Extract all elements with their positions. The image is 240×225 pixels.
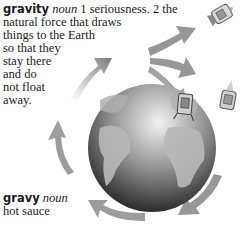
entry-word: gravy bbox=[3, 191, 40, 205]
definition-line: away. bbox=[3, 94, 143, 107]
part-of-speech: noun bbox=[52, 2, 77, 16]
part-of-speech: noun bbox=[43, 191, 68, 205]
definition-line: 1 seriousness. 2 the bbox=[77, 2, 177, 16]
dictionary-entry-gravy: gravy noun hot sauce bbox=[3, 192, 68, 218]
spacecraft-right bbox=[220, 79, 239, 110]
definition-line: hot sauce bbox=[3, 205, 68, 218]
dictionary-entry-gravity: gravity noun 1 seriousness. 2 the natura… bbox=[3, 3, 143, 107]
spacecraft-top bbox=[206, 1, 236, 27]
entry-word: gravity bbox=[3, 2, 49, 16]
